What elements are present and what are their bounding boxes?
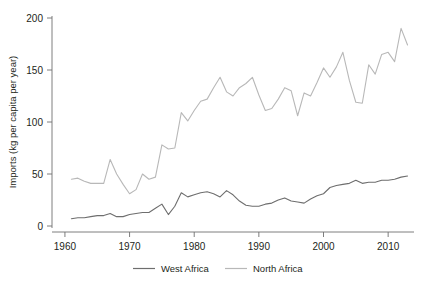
x-tick-label: 1980: [183, 241, 206, 252]
x-tick-label: 2010: [377, 241, 400, 252]
y-axis-title: Imports (kg per capita per year): [7, 56, 18, 189]
legend: West AfricaNorth Africa: [133, 263, 303, 274]
y-tick-label: 0: [37, 221, 43, 232]
y-ticks: [47, 18, 52, 226]
line-chart: 050100150200 Imports (kg per capita per …: [0, 0, 423, 286]
y-tick-label: 150: [26, 65, 43, 76]
y-tick-label: 100: [26, 117, 43, 128]
x-tick-labels: 196019701980199020002010: [54, 241, 400, 252]
plot-area: 050100150200 Imports (kg per capita per …: [7, 13, 414, 253]
series-line-north-africa: [71, 28, 407, 193]
x-tick-label: 2000: [312, 241, 335, 252]
legend-label-west-africa: West Africa: [161, 263, 210, 274]
x-tick-label: 1960: [54, 241, 77, 252]
y-tick-label: 50: [32, 169, 44, 180]
x-ticks: [65, 232, 388, 237]
x-axis: 196019701980199020002010: [52, 232, 414, 252]
y-tick-labels: 050100150200: [26, 13, 43, 232]
legend-label-north-africa: North Africa: [253, 263, 303, 274]
x-tick-label: 1990: [248, 241, 271, 252]
y-axis: 050100150200 Imports (kg per capita per …: [7, 13, 52, 232]
y-tick-label: 200: [26, 13, 43, 24]
series-lines: [71, 28, 407, 218]
x-tick-label: 1970: [118, 241, 141, 252]
